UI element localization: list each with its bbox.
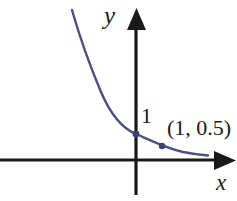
y-axis-label: y — [104, 3, 115, 28]
plot-canvas — [0, 0, 237, 201]
y-intercept-tick-label: 1 — [141, 105, 152, 127]
graph-figure: y x 1 (1, 0.5) — [0, 0, 237, 201]
x-axis-label: x — [216, 171, 226, 194]
data-point-y-intercept — [133, 131, 140, 138]
x-axis-arrowhead — [214, 151, 236, 170]
data-point-one-half — [159, 143, 165, 149]
point-coordinate-label: (1, 0.5) — [167, 117, 231, 139]
y-axis-arrowhead — [127, 8, 146, 30]
